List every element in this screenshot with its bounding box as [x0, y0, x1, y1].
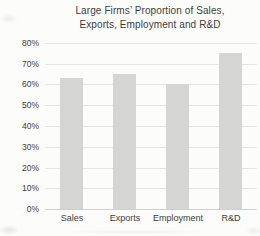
y-tick-label-60: 60%	[0, 79, 39, 89]
y-tick-label-80: 80%	[0, 38, 39, 48]
y-tick-label-20: 20%	[0, 163, 39, 173]
x-axis-line	[45, 209, 257, 210]
chart-title-line-1: Large Firms’ Proportion of Sales,	[42, 4, 258, 18]
bar-exports	[113, 74, 136, 209]
y-tick-label-30: 30%	[0, 142, 39, 152]
bar-employment	[166, 84, 189, 209]
bar-r-d	[219, 53, 242, 209]
y-tick-label-10: 10%	[0, 183, 39, 193]
y-tick-label-0: 0%	[0, 204, 39, 214]
chart-title: Large Firms’ Proportion of Sales, Export…	[42, 4, 258, 31]
y-tick-label-40: 40%	[0, 121, 39, 131]
chart-title-line-2: Exports, Employment and R&D	[42, 18, 258, 32]
bar-sales	[60, 78, 83, 209]
y-tick-label-50: 50%	[0, 100, 39, 110]
scan-smudge	[0, 222, 24, 236]
scan-smudge	[0, 12, 22, 26]
scan-smudge	[242, 224, 260, 236]
gridline-80	[45, 43, 257, 44]
y-tick-label-70: 70%	[0, 59, 39, 69]
x-axis-label-r-d: R&D	[196, 213, 260, 223]
bar-chart: Large Firms’ Proportion of Sales, Export…	[0, 0, 260, 236]
scan-smudge	[40, 229, 230, 235]
